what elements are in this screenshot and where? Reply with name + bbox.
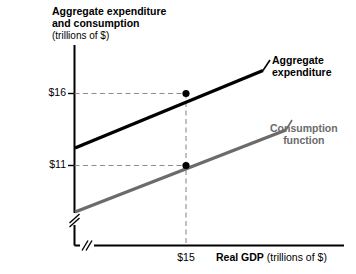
x-axis-break-icon <box>80 240 94 251</box>
consumption-function-line <box>75 130 286 212</box>
aggregate-expenditure-point <box>182 90 189 97</box>
aggregate-expenditure-chart: Aggregate expenditure and consumption (t… <box>0 0 356 274</box>
plot-area <box>0 0 356 274</box>
consumption-function-leader-line <box>286 120 292 130</box>
consumption-function-point <box>182 162 189 169</box>
aggregate-expenditure-line <box>75 71 263 149</box>
aggregate-expenditure-leader-line <box>263 60 270 71</box>
y-axis-break-icon <box>69 213 80 227</box>
